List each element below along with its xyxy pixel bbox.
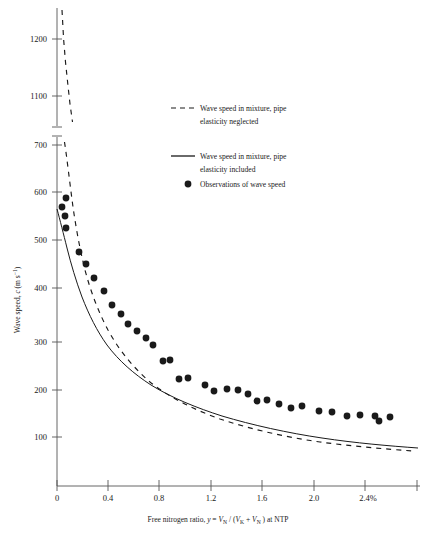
data-point (83, 261, 90, 268)
data-point (387, 414, 394, 421)
y-ticklabel-100: 100 (34, 432, 47, 442)
chart-figure: 1200 1100 700 600 500 400 300 200 100 0 (0, 0, 430, 533)
data-point (101, 288, 108, 295)
dashed-curve-upper (62, 10, 73, 122)
y-ticklabel-700: 700 (34, 140, 47, 150)
data-point (167, 357, 174, 364)
data-point (357, 412, 364, 419)
x-ticklabel-1p6: 1.6 (257, 493, 268, 503)
data-point (125, 321, 132, 328)
y-ticks-lower: 700 600 500 400 300 200 100 (34, 140, 62, 442)
data-point (202, 382, 209, 389)
x-axis-title-eq: = (210, 515, 218, 524)
data-point (63, 225, 70, 232)
y-axis-title-group: Wave speed, c (m s−1) (12, 266, 22, 333)
data-point (76, 249, 83, 256)
data-point (254, 398, 261, 405)
data-point (329, 409, 336, 416)
x-axis-title-close: ) at NTP (261, 515, 289, 524)
series-dashed-neglected (62, 10, 413, 451)
data-point (211, 388, 218, 395)
data-point (59, 204, 66, 211)
x-axis-title: Free nitrogen ratio, y = VN / (VK + VN )… (148, 515, 289, 525)
data-point (62, 213, 69, 220)
y-ticklabel-300: 300 (34, 337, 47, 347)
data-point (143, 335, 150, 342)
y-axis-title-units: (m s (13, 275, 22, 290)
data-point (264, 397, 271, 404)
legend-item-dashed[interactable]: Wave speed in mixture, pipe elasticity n… (171, 104, 287, 126)
legend-solid-label-line1: Wave speed in mixture, pipe (200, 152, 287, 161)
x-axis-title-group: Free nitrogen ratio, y = VN / (VK + VN )… (148, 515, 289, 525)
legend-filled-circle-icon (185, 181, 192, 188)
data-point (176, 376, 183, 383)
y-ticklabel-500: 500 (34, 235, 47, 245)
data-point (134, 328, 141, 335)
data-point (63, 195, 70, 202)
x-ticklabel-2p0: 2.0 (309, 493, 320, 503)
data-point (150, 342, 157, 349)
data-point (91, 275, 98, 282)
y-axis-title: Wave speed, c (m s−1) (12, 266, 22, 333)
y-axis-title-close: ) (13, 266, 22, 269)
series-observation-points (59, 195, 394, 425)
legend-solid-label-line2: elasticity included (200, 165, 256, 174)
x-ticklabel-2p4: 2.4% (359, 493, 377, 503)
solid-curve (57, 209, 418, 448)
data-point (185, 375, 192, 382)
data-point (316, 408, 323, 415)
data-point (118, 311, 125, 318)
x-ticklabel-0: 0 (55, 493, 59, 503)
x-ticklabel-0p8: 0.8 (154, 493, 165, 503)
y-ticklabel-200: 200 (34, 385, 47, 395)
y-ticklabel-1100: 1100 (30, 91, 47, 101)
legend-observations-label: Observations of wave speed (200, 180, 286, 189)
legend-item-observations[interactable]: Observations of wave speed (185, 180, 286, 189)
axes-group (52, 8, 420, 486)
y-axis-title-lead: Wave speed, (13, 294, 22, 334)
data-point (288, 405, 295, 412)
chart-legend: Wave speed in mixture, pipe elasticity n… (171, 104, 287, 189)
data-point (276, 401, 283, 408)
x-ticks: 0 0.4 0.8 1.2 1.6 2.0 2.4% (55, 480, 417, 503)
data-point (160, 358, 167, 365)
data-point (235, 387, 242, 394)
x-ticklabel-1p2: 1.2 (206, 493, 217, 503)
y-ticklabel-600: 600 (34, 187, 47, 197)
data-point (344, 413, 351, 420)
data-point (224, 386, 231, 393)
series-solid-included (57, 209, 418, 448)
legend-dashed-label-line2: elasticity neglected (200, 117, 259, 126)
y-ticklabel-1200: 1200 (30, 34, 47, 44)
x-axis-title-lead: Free nitrogen ratio, (148, 515, 208, 524)
legend-item-solid[interactable]: Wave speed in mixture, pipe elasticity i… (171, 152, 287, 174)
legend-dashed-label-line1: Wave speed in mixture, pipe (200, 104, 287, 113)
data-point (376, 418, 383, 425)
x-ticklabel-0p4: 0.4 (103, 493, 114, 503)
y-ticklabel-400: 400 (34, 283, 47, 293)
data-point (245, 391, 252, 398)
x-axis-title-plus: + (244, 515, 252, 524)
wave-speed-scatter-chart: 1200 1100 700 600 500 400 300 200 100 0 (0, 0, 430, 533)
data-point (299, 403, 306, 410)
data-point (109, 302, 116, 309)
